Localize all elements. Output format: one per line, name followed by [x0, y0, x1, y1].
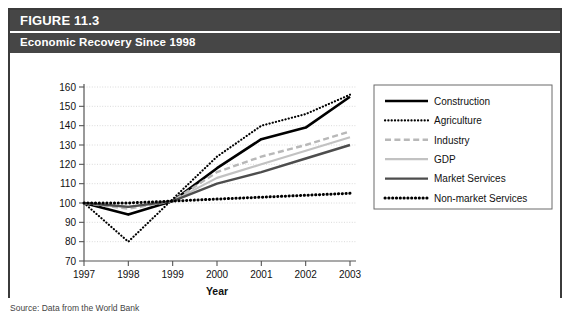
legend-label-agriculture: Agriculture	[434, 115, 482, 126]
svg-text:140: 140	[59, 120, 76, 131]
svg-text:2000: 2000	[206, 269, 229, 280]
svg-text:2001: 2001	[250, 269, 273, 280]
legend-label-market-services: Market Services	[434, 173, 506, 184]
chart-area: 708090100110120130140150160 199719981999…	[10, 53, 560, 298]
chart-legend: ConstructionAgricultureIndustryGDPMarket…	[374, 85, 552, 209]
svg-text:120: 120	[59, 159, 76, 170]
x-axis-title: Year	[206, 285, 228, 297]
svg-text:70: 70	[65, 256, 77, 267]
y-axis-ticks: 708090100110120130140150160	[59, 82, 84, 267]
svg-text:130: 130	[59, 140, 76, 151]
series-line-non-market-services	[84, 193, 350, 203]
series-line-industry	[84, 132, 350, 209]
figure-subtitle: Economic Recovery Since 1998	[20, 36, 195, 48]
figure-container: FIGURE 11.3 Economic Recovery Since 1998…	[8, 8, 562, 298]
svg-text:2003: 2003	[339, 269, 362, 280]
svg-text:150: 150	[59, 101, 76, 112]
svg-text:110: 110	[60, 178, 76, 189]
chart-gridlines	[84, 87, 356, 242]
svg-text:2002: 2002	[295, 269, 318, 280]
legend-label-gdp: GDP	[434, 154, 456, 165]
svg-text:1998: 1998	[117, 269, 140, 280]
source-note: Source: Data from the World Bank	[10, 303, 139, 313]
x-axis-ticks: 1997199819992000200120022003	[73, 261, 362, 280]
svg-text:160: 160	[59, 82, 76, 93]
legend-label-non-market-services: Non-market Services	[434, 193, 527, 204]
svg-text:100: 100	[59, 198, 76, 209]
chart-series-group	[84, 95, 350, 242]
svg-text:1999: 1999	[162, 269, 185, 280]
svg-text:80: 80	[65, 236, 77, 247]
svg-text:1997: 1997	[73, 269, 96, 280]
figure-label: FIGURE 11.3	[20, 13, 100, 28]
legend-label-industry: Industry	[434, 135, 470, 146]
legend-label-construction: Construction	[434, 96, 490, 107]
line-chart: 708090100110120130140150160 199719981999…	[10, 53, 564, 298]
svg-text:90: 90	[65, 217, 77, 228]
